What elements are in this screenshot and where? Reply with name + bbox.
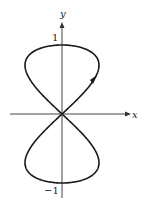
y-tick-top: 1 <box>52 32 58 43</box>
x-axis-label: x <box>132 109 138 120</box>
y-axis-arrow-icon <box>60 22 65 28</box>
x-axis-arrow-icon <box>125 112 131 117</box>
figure-eight-diagram: y x 1 −1 <box>0 0 145 203</box>
y-tick-bottom: −1 <box>44 185 59 196</box>
y-axis-label: y <box>59 8 66 19</box>
